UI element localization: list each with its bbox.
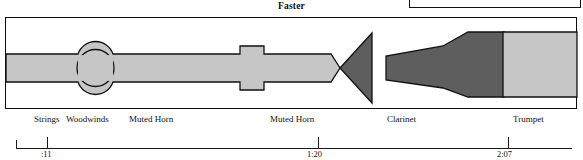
- timeline-label-0-11: :11: [41, 149, 52, 160]
- instrument-label-strings: Strings: [34, 113, 60, 126]
- timeline-tick-2-07: [508, 137, 509, 148]
- bulge-seam-cover: [78, 55, 113, 81]
- clarinet-wedge: [386, 32, 504, 97]
- timeline-tick-start: [16, 140, 17, 148]
- instrument-label-trumpet: Trumpet: [513, 113, 544, 126]
- ribbon-light-segment: [6, 42, 340, 95]
- timeline-label-2-07: 2:07: [497, 149, 512, 160]
- figure-stage: Faster Strings Woodwinds Muted Horn Mute…: [0, 0, 583, 160]
- timeline-axis: [16, 148, 572, 149]
- timeline-label-1-20: 1:20: [307, 149, 322, 160]
- trumpet-block: [503, 32, 577, 97]
- instrument-label-muted-horn-1: Muted Horn: [129, 113, 173, 126]
- timeline-tick-0-11: [47, 137, 48, 148]
- instrument-label-clarinet: Clarinet: [387, 113, 416, 126]
- instrument-ribbon: [0, 0, 583, 160]
- instrument-label-muted-horn-2: Muted Horn: [270, 113, 314, 126]
- instrument-label-woodwinds: Woodwinds: [66, 113, 109, 126]
- muted-horn-dark-triangle: [340, 33, 372, 103]
- timeline-tick-1-20: [318, 137, 319, 148]
- instrument-label-row: Strings Woodwinds Muted Horn Muted Horn …: [5, 113, 577, 127]
